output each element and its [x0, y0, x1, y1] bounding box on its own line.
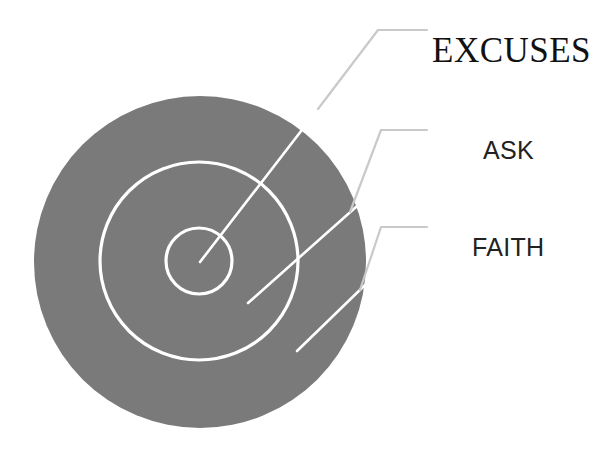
label-ask: ASK	[483, 138, 534, 163]
label-excuses: EXCUSES	[432, 33, 591, 68]
label-faith: FAITH	[472, 235, 544, 260]
diagram-canvas: EXCUSES ASK FAITH	[0, 0, 615, 450]
